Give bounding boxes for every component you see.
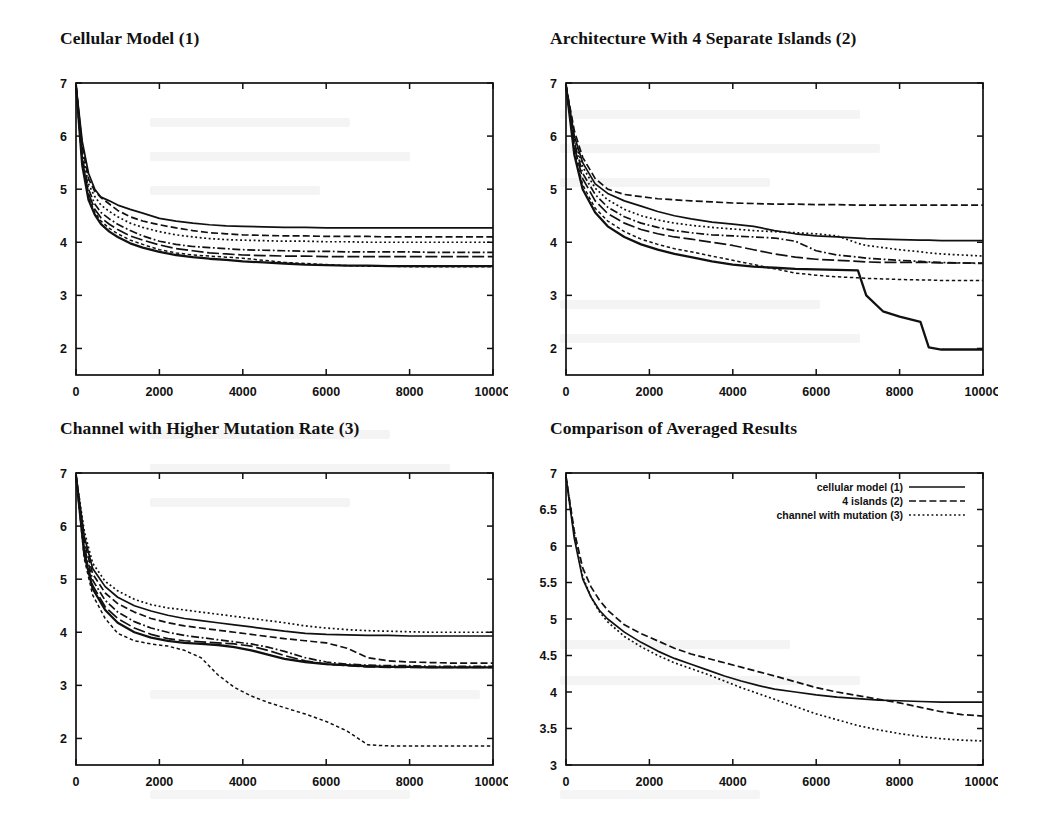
y-tick-label: 5 [60,573,67,587]
x-tick-label: 4000 [229,775,257,789]
y-tick-label: 4 [60,236,67,250]
panel-comparison: Comparison of Averaged Results 020004000… [508,412,998,812]
y-tick-label: 5 [60,183,67,197]
x-tick-label: 1000C [475,385,508,399]
y-tick-label: 2 [60,342,67,356]
x-tick-label: 2000 [635,385,663,399]
x-tick-label: 6000 [802,385,830,399]
y-tick-label: 7 [60,467,67,481]
y-tick-label: 3 [550,289,557,303]
axis-frame [76,473,493,765]
x-tick-label: 1000C [965,775,998,789]
y-tick-label: 6 [60,520,67,534]
y-tick-label: 6 [550,540,557,554]
y-tick-label: 3.5 [540,722,557,736]
axis-frame [566,473,983,765]
x-tick-label: 4000 [719,775,747,789]
plot-channel-mutation: 020004000600080001000C234567 [18,412,508,812]
x-tick-label: 8000 [886,775,914,789]
x-tick-label: 6000 [802,775,830,789]
axis-frame [566,83,983,375]
series-line [566,86,983,263]
y-tick-label: 7 [550,467,557,481]
y-tick-label: 3 [60,289,67,303]
y-tick-label: 5.5 [540,576,557,590]
x-tick-label: 4000 [719,385,747,399]
series-line [76,86,493,257]
y-tick-label: 3 [550,759,557,773]
series-line [76,476,493,636]
x-tick-label: 8000 [886,385,914,399]
x-tick-label: 0 [73,385,80,399]
panel-cellular-model: Cellular Model (1) 020004000600080001000… [18,22,508,422]
x-tick-label: 1000C [475,775,508,789]
y-tick-label: 7 [550,77,557,91]
y-tick-label: 5 [550,613,557,627]
series-line [566,86,983,264]
series-line [566,86,983,281]
x-tick-label: 6000 [312,385,340,399]
y-tick-label: 6 [550,130,557,144]
x-tick-label: 2000 [145,775,173,789]
series-line [566,477,983,716]
y-tick-label: 4 [60,626,67,640]
y-tick-label: 2 [60,732,67,746]
x-tick-label: 0 [563,775,570,789]
x-tick-label: 2000 [635,775,663,789]
legend-label: channel with mutation (3) [776,509,903,521]
y-tick-label: 4.5 [540,649,557,663]
y-tick-label: 4 [550,236,557,250]
x-tick-label: 8000 [396,775,424,789]
y-tick-label: 3 [60,679,67,693]
series-line [76,86,493,228]
y-tick-label: 6.5 [540,503,557,517]
series-line [566,86,983,205]
legend-label: 4 islands (2) [842,495,903,507]
series-line [566,477,983,703]
figure-grid: Cellular Model (1) 020004000600080001000… [0,0,1040,819]
plot-four-islands: 020004000600080001000C234567 [508,22,998,422]
y-tick-label: 5 [550,183,557,197]
x-tick-label: 1000C [965,385,998,399]
series-line [566,86,983,241]
series-line [76,476,493,746]
series-line [76,476,493,663]
x-tick-label: 2000 [145,385,173,399]
series-line [76,476,493,667]
series-line [76,86,493,243]
plot-comparison: 020004000600080001000C33.544.555.566.57c… [508,412,998,812]
x-tick-label: 6000 [312,775,340,789]
x-tick-label: 0 [73,775,80,789]
plot-cellular-model: 020004000600080001000C234567 [18,22,508,422]
y-tick-label: 6 [60,130,67,144]
x-tick-label: 4000 [229,385,257,399]
x-tick-label: 0 [563,385,570,399]
y-tick-label: 4 [550,686,557,700]
axis-frame [76,83,493,375]
panel-four-islands: Architecture With 4 Separate Islands (2)… [508,22,998,422]
series-line [76,476,493,633]
y-tick-label: 2 [550,342,557,356]
panel-channel-mutation: Channel with Higher Mutation Rate (3) 02… [18,412,508,812]
x-tick-label: 8000 [396,385,424,399]
legend-label: cellular model (1) [817,481,903,493]
y-tick-label: 7 [60,77,67,91]
series-line [76,86,493,237]
